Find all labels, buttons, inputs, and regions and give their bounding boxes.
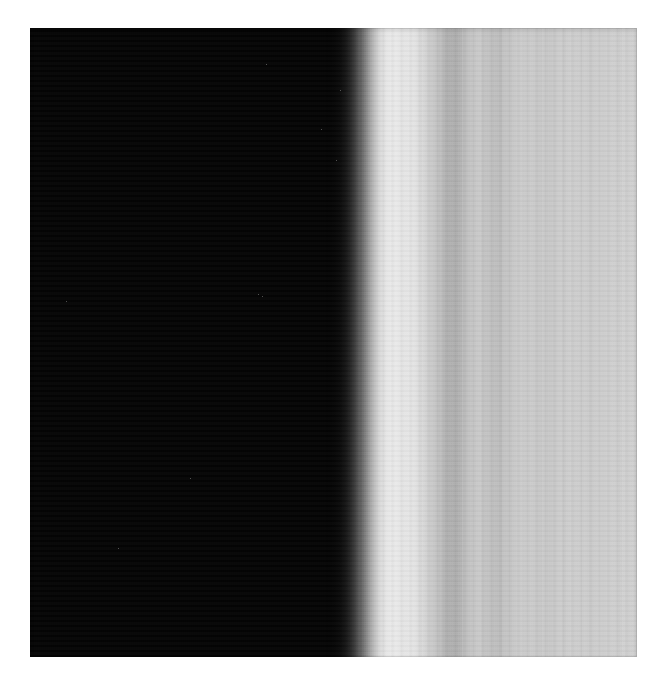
intensity-band-gradient [30, 28, 637, 657]
scanline-overlay [30, 28, 637, 657]
dust-speck [118, 548, 119, 549]
dust-speck [262, 296, 263, 297]
halftone-grain-overlay [30, 28, 637, 657]
vertical-fringe-modulation [30, 28, 637, 657]
dust-speck [266, 64, 267, 65]
dust-speck [336, 160, 337, 161]
grayscale-figure-plate [30, 28, 637, 657]
dust-speck [190, 478, 191, 479]
dust-speck [340, 90, 341, 91]
dust-speck [321, 129, 322, 130]
plate-edge-shading [30, 28, 637, 657]
black-field-region [30, 28, 637, 657]
dust-speck [66, 301, 67, 302]
page-root [0, 0, 668, 687]
fine-stripe-texture [378, 28, 637, 657]
dust-speck [258, 294, 259, 295]
